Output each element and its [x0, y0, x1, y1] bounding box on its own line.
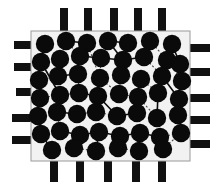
cell-node-25 — [51, 86, 69, 104]
pin-bottom-3 — [104, 158, 112, 182]
pin-bottom-2 — [76, 158, 84, 182]
cell-node-43 — [90, 123, 108, 141]
cell-node-41 — [51, 122, 69, 140]
cell-node-33 — [48, 103, 66, 121]
cell-node-47 — [172, 124, 190, 142]
cell-node-51 — [109, 139, 127, 157]
cell-node-15 — [171, 55, 189, 73]
cell-node-17 — [49, 67, 67, 85]
cell-node-48 — [43, 141, 61, 159]
cell-node-27 — [89, 87, 107, 105]
pin-bottom-1 — [50, 158, 58, 182]
cell-node-45 — [131, 124, 149, 142]
cell-node-36 — [108, 107, 126, 125]
cell-node-38 — [148, 109, 166, 127]
pin-top-4 — [134, 8, 142, 32]
cell-node-32 — [29, 107, 47, 125]
pin-top-5 — [158, 8, 166, 32]
cell-node-52 — [130, 142, 148, 160]
cell-node-21 — [132, 70, 150, 88]
cell-node-6 — [141, 32, 159, 50]
cell-node-1 — [36, 35, 54, 53]
cell-node-37 — [128, 104, 146, 122]
cell-node-39 — [169, 106, 187, 124]
cell-node-28 — [110, 85, 128, 103]
cell-node-34 — [68, 105, 86, 123]
cell-node-18 — [69, 65, 87, 83]
cell-node-19 — [91, 69, 109, 87]
cell-node-2 — [57, 32, 75, 50]
cell-node-16 — [30, 71, 48, 89]
cell-node-10 — [71, 47, 89, 65]
cell-node-4 — [99, 32, 117, 50]
pin-top-2 — [84, 8, 92, 32]
cell-node-11 — [92, 49, 110, 67]
cell-node-24 — [31, 89, 49, 107]
cell-node-50 — [87, 142, 105, 160]
pin-top-3 — [110, 8, 118, 32]
cell-node-40 — [32, 125, 50, 143]
figure-canvas — [0, 0, 221, 187]
pin-top-1 — [60, 8, 68, 32]
cell-node-23 — [173, 72, 191, 90]
cell-node-29 — [129, 88, 147, 106]
cell-node-26 — [70, 84, 88, 102]
chip-floorplan-figure: Chip floorplan with placed cells and int… — [0, 0, 221, 187]
cell-node-22 — [153, 67, 171, 85]
pin-bottom-5 — [158, 158, 166, 182]
cell-node-49 — [65, 139, 83, 157]
cell-node-7 — [163, 35, 181, 53]
cell-node-9 — [51, 50, 69, 68]
cell-node-8 — [32, 53, 50, 71]
cell-node-5 — [119, 34, 137, 52]
pin-bottom-4 — [132, 158, 140, 182]
cell-node-30 — [149, 84, 167, 102]
cell-node-20 — [112, 66, 130, 84]
cell-node-13 — [135, 48, 153, 66]
cell-node-35 — [87, 103, 105, 121]
cell-node-53 — [154, 140, 172, 158]
cell-node-31 — [170, 90, 188, 108]
